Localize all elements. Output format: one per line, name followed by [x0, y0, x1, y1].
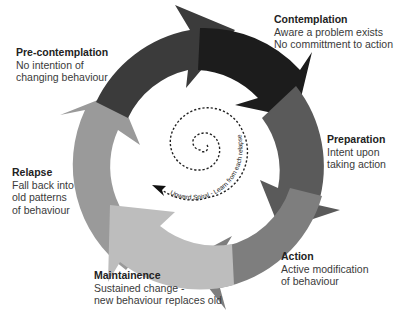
stage-desc: Intent upon: [327, 146, 386, 159]
stage-desc: Sustained change -: [94, 282, 222, 295]
stage-desc: No committment to action: [274, 38, 393, 51]
stage-desc: Aware a problem exists: [274, 26, 393, 39]
spiral-arrowhead-icon: [152, 185, 166, 196]
stage-title: Relapse: [12, 166, 74, 179]
spiral-label: Upward Spiral - Learn from each relapse: [169, 134, 244, 202]
stage-desc: No intention of: [16, 59, 108, 72]
stage-desc: of behaviour: [12, 204, 74, 217]
stage-label-maintainence: Maintainence Sustained change - new beha…: [94, 269, 222, 307]
stage-label-relapse: Relapse Fall back into old patterns of b…: [12, 166, 74, 216]
faint-caption: · · ·: [150, 303, 270, 311]
stage-desc: Fall back into: [12, 179, 74, 192]
stage-desc: taking action: [327, 158, 386, 171]
stage-desc: old patterns: [12, 191, 74, 204]
stage-label-pre-contemplation: Pre-contemplation No intention of changi…: [16, 46, 108, 84]
stage-title: Contemplation: [274, 13, 393, 26]
stage-title: Maintainence: [94, 269, 222, 282]
stage-title: Preparation: [327, 133, 386, 146]
stage-title: Pre-contemplation: [16, 46, 108, 59]
stage-label-contemplation: Contemplation Aware a problem exists No …: [274, 13, 393, 51]
stage-label-preparation: Preparation Intent upon taking action: [327, 133, 386, 171]
stage-title: Action: [281, 250, 369, 263]
upward-spiral: [162, 108, 247, 200]
stage-desc: of behaviour: [281, 275, 369, 288]
stage-label-action: Action Active modification of behaviour: [281, 250, 369, 288]
stage-desc: changing behaviour: [16, 71, 108, 84]
stage-desc: Active modification: [281, 263, 369, 276]
